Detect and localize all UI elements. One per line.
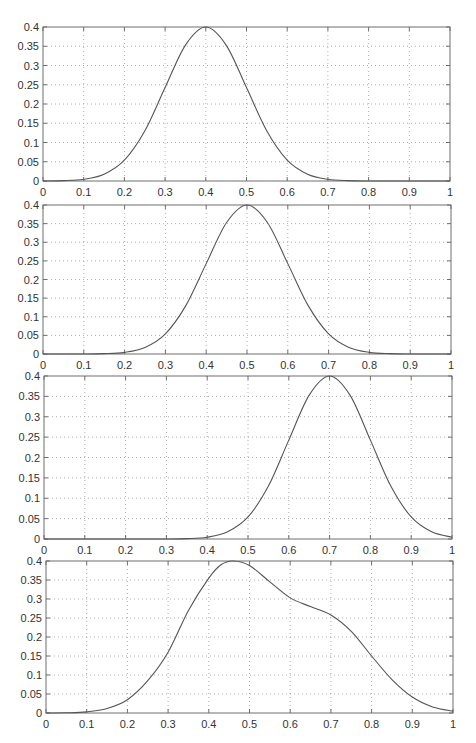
y-tick-label: 0.3 <box>25 411 40 423</box>
y-tick-label: 0.2 <box>24 274 39 286</box>
y-tick-label: 0 <box>33 175 39 187</box>
y-tick-label: 0.15 <box>21 650 42 662</box>
x-tick-label: 0.2 <box>117 186 132 198</box>
y-tick-label: 0.15 <box>18 292 39 304</box>
x-tick-label: 0.8 <box>363 544 378 556</box>
x-tick-label: 1 <box>449 544 455 556</box>
x-tick-label: 0.1 <box>77 544 92 556</box>
x-tick-label: 0.7 <box>323 718 338 730</box>
y-tick-label: 0.35 <box>18 218 39 230</box>
density-curve <box>46 561 453 713</box>
x-tick-label: 0.1 <box>79 718 94 730</box>
y-tick-label: 0 <box>34 533 40 545</box>
subplot-1: 00.10.20.30.40.50.60.70.80.9100.050.10.1… <box>18 21 453 198</box>
x-tick-label: 0.4 <box>198 186 213 198</box>
subplot-2: 00.10.20.30.40.50.60.70.80.9100.050.10.1… <box>18 199 454 371</box>
y-tick-label: 0.15 <box>18 117 39 129</box>
x-tick-label: 0.6 <box>280 186 295 198</box>
y-tick-label: 0.25 <box>18 79 39 91</box>
x-tick-label: 0.9 <box>405 718 420 730</box>
y-tick-label: 0.2 <box>24 98 39 110</box>
x-tick-label: 0 <box>40 186 46 198</box>
x-tick-label: 0 <box>43 718 49 730</box>
y-tick-label: 0.05 <box>18 329 39 341</box>
x-tick-label: 0.5 <box>240 544 255 556</box>
y-tick-labels: 00.050.10.150.20.250.30.350.4 <box>18 199 39 360</box>
x-tick-labels: 00.10.20.30.40.50.60.70.80.91 <box>40 186 453 198</box>
y-tick-label: 0.2 <box>25 452 40 464</box>
y-tick-label: 0 <box>33 348 39 360</box>
y-tick-label: 0.15 <box>19 472 40 484</box>
grid-lines <box>44 376 452 539</box>
x-tick-labels: 00.10.20.30.40.50.60.70.80.91 <box>40 359 454 371</box>
x-tick-labels: 00.10.20.30.40.50.60.70.80.91 <box>41 544 455 556</box>
y-tick-label: 0.3 <box>27 593 42 605</box>
y-tick-label: 0 <box>36 707 42 719</box>
x-tick-label: 0 <box>40 359 46 371</box>
x-tick-label: 0.8 <box>362 359 377 371</box>
x-tick-label: 0.9 <box>404 544 419 556</box>
x-tick-label: 0.9 <box>403 359 418 371</box>
x-tick-label: 0.7 <box>321 359 336 371</box>
y-tick-label: 0.05 <box>18 156 39 168</box>
x-tick-label: 0.5 <box>239 359 254 371</box>
x-tick-label: 0.8 <box>361 186 376 198</box>
x-tick-label: 0.3 <box>158 359 173 371</box>
y-tick-labels: 00.050.10.150.20.250.30.350.4 <box>18 21 39 187</box>
x-tick-label: 1 <box>447 186 453 198</box>
x-tick-label: 1 <box>450 718 456 730</box>
grid-lines <box>43 205 451 354</box>
x-tick-label: 0.6 <box>280 359 295 371</box>
subplot-3: 00.10.20.30.40.50.60.70.80.9100.050.10.1… <box>19 370 455 556</box>
x-tick-label: 0.4 <box>199 359 214 371</box>
y-tick-label: 0.1 <box>24 311 39 323</box>
y-tick-label: 0.4 <box>25 370 40 382</box>
y-tick-label: 0.25 <box>18 255 39 267</box>
y-tick-label: 0.35 <box>18 40 39 52</box>
y-tick-label: 0.1 <box>25 492 40 504</box>
y-tick-label: 0.05 <box>21 688 42 700</box>
y-tick-label: 0.05 <box>19 513 40 525</box>
grid-lines <box>43 27 450 181</box>
figure-canvas: 00.10.20.30.40.50.60.70.80.9100.050.10.1… <box>0 0 476 743</box>
y-tick-label: 0.25 <box>21 612 42 624</box>
y-tick-label: 0.3 <box>24 60 39 72</box>
x-tick-label: 0.3 <box>159 544 174 556</box>
x-tick-label: 0.4 <box>201 718 216 730</box>
x-tick-labels: 00.10.20.30.40.50.60.70.80.91 <box>43 718 456 730</box>
x-tick-label: 0.9 <box>402 186 417 198</box>
x-tick-label: 0.6 <box>281 544 296 556</box>
x-tick-label: 0.3 <box>160 718 175 730</box>
y-tick-label: 0.35 <box>21 574 42 586</box>
y-tick-label: 0.4 <box>27 555 42 567</box>
x-tick-label: 1 <box>448 359 454 371</box>
y-tick-label: 0.2 <box>27 631 42 643</box>
x-tick-label: 0.7 <box>320 186 335 198</box>
x-tick-label: 0.1 <box>76 359 91 371</box>
x-tick-label: 0.2 <box>117 359 132 371</box>
y-tick-label: 0.3 <box>24 236 39 248</box>
x-tick-label: 0.1 <box>76 186 91 198</box>
y-tick-label: 0.4 <box>24 21 39 33</box>
x-tick-label: 0.6 <box>283 718 298 730</box>
x-tick-label: 0.3 <box>157 186 172 198</box>
x-tick-label: 0.2 <box>118 544 133 556</box>
y-tick-label: 0.4 <box>24 199 39 211</box>
y-tick-labels: 00.050.10.150.20.250.30.350.4 <box>21 555 42 719</box>
y-tick-label: 0.25 <box>19 431 40 443</box>
y-tick-labels: 00.050.10.150.20.250.30.350.4 <box>19 370 40 545</box>
y-tick-label: 0.35 <box>19 390 40 402</box>
y-tick-label: 0.1 <box>24 137 39 149</box>
x-tick-label: 0.5 <box>242 718 257 730</box>
x-tick-label: 0.7 <box>322 544 337 556</box>
grid-lines <box>46 561 453 713</box>
x-tick-label: 0.4 <box>200 544 215 556</box>
x-tick-label: 0.2 <box>120 718 135 730</box>
x-tick-label: 0.5 <box>239 186 254 198</box>
x-tick-label: 0.8 <box>364 718 379 730</box>
subplot-4: 00.10.20.30.40.50.60.70.80.9100.050.10.1… <box>21 555 456 730</box>
y-tick-label: 0.1 <box>27 669 42 681</box>
